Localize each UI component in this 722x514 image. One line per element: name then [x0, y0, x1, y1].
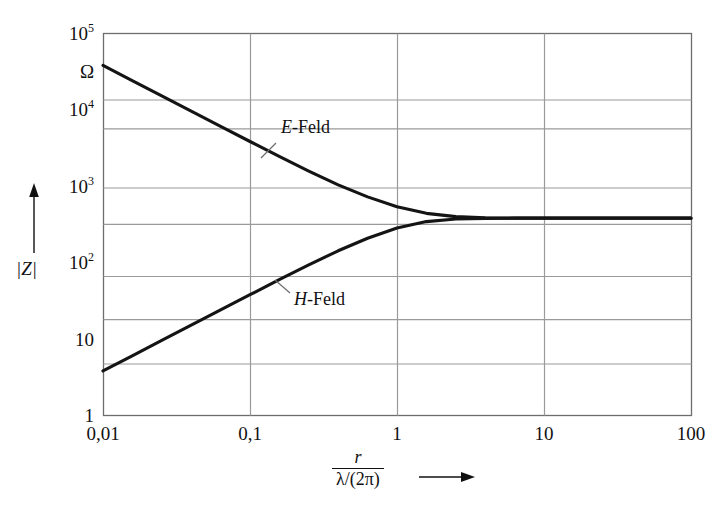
x-axis-title: r λ/(2π): [332, 448, 384, 489]
x-tick-label-3: 10: [535, 424, 554, 443]
x-tick-label-2: 1: [392, 424, 402, 443]
x-tick-label-0: 0,01: [86, 424, 119, 443]
y-tick-exponent-5: 5: [88, 21, 94, 35]
e-feld-symbol: E: [281, 117, 292, 137]
y-tick-exponent-3: 3: [88, 174, 94, 188]
x-axis-title-numerator: r: [332, 448, 384, 468]
x-tick-label-4: 100: [677, 424, 706, 443]
e-feld-annotation: E-Feld: [281, 117, 330, 138]
y-tick-label-1: 1: [32, 406, 94, 425]
y-tick-label-1000: 103: [32, 176, 94, 195]
y-tick-label-100000: 105: [32, 24, 94, 43]
y-tick-label-10: 10: [32, 329, 94, 348]
x-axis-arrow: [419, 472, 475, 482]
e-feld-suffix: -Feld: [292, 117, 330, 137]
wave-impedance-chart: 105 104 103 102 10 1 Ω |Z| 0,01 0,1 1 10…: [0, 0, 722, 514]
h-feld-leader-line: [275, 280, 290, 293]
y-tick-exponent-4: 4: [88, 98, 94, 112]
y-tick-exponent-2: 2: [88, 250, 94, 264]
h-feld-annotation: H-Feld: [294, 289, 345, 310]
y-tick-label-100: 102: [32, 253, 94, 272]
y-axis-title: |Z|: [16, 258, 37, 280]
x-tick-label-1: 0,1: [238, 424, 262, 443]
y-tick-label-10000: 104: [32, 100, 94, 119]
h-feld-suffix: -Feld: [307, 289, 345, 309]
x-axis-title-denominator: λ/(2π): [332, 468, 384, 489]
e-feld-leader-line: [261, 143, 276, 158]
y-axis-unit-label: Ω: [80, 61, 94, 83]
h-feld-symbol: H: [294, 289, 307, 309]
